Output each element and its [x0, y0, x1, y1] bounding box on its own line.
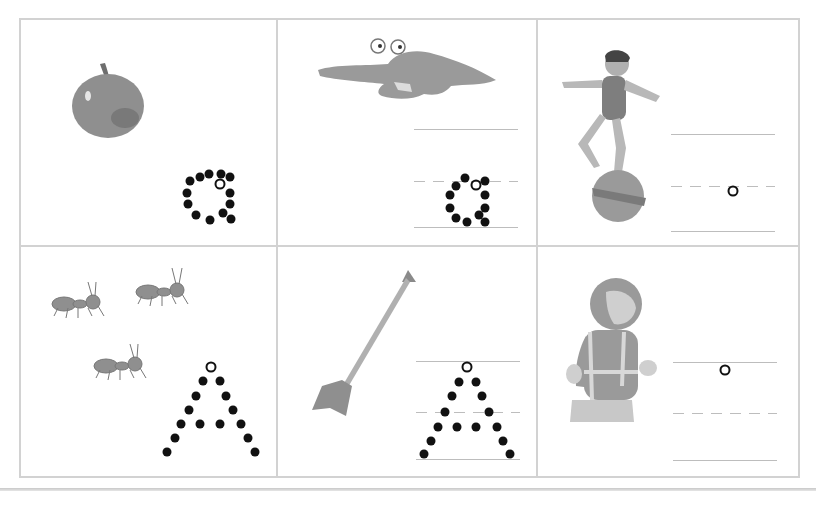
grid-border-top	[19, 18, 800, 20]
trace-dot	[226, 173, 235, 182]
guide-line-dashed	[673, 413, 777, 414]
trace-dot	[448, 392, 457, 401]
guide-line-solid	[671, 231, 775, 232]
trace-dot	[420, 450, 429, 459]
guide-line-solid	[673, 460, 777, 461]
grid-divider-horizontal	[19, 245, 800, 247]
trace-dot	[183, 189, 192, 198]
trace-dot	[196, 173, 205, 182]
trace-dot	[446, 191, 455, 200]
guide-line-solid	[414, 129, 518, 130]
trace-start-circle	[462, 362, 473, 373]
trace-dot	[216, 420, 225, 429]
trace-dot	[506, 450, 515, 459]
guide-line-solid	[673, 362, 777, 363]
trace-dot	[452, 182, 461, 191]
trace-dot	[463, 218, 472, 227]
arrow-icon	[310, 268, 420, 422]
trace-dot	[237, 420, 246, 429]
trace-dot	[472, 378, 481, 387]
trace-dot	[485, 408, 494, 417]
apple-icon	[70, 60, 150, 140]
trace-dot	[481, 191, 490, 200]
trace-dot	[472, 423, 481, 432]
astronaut-icon	[562, 276, 658, 424]
trace-dot	[171, 434, 180, 443]
guide-line-dashed	[671, 186, 775, 187]
trace-dot	[206, 216, 215, 225]
trace-dot	[244, 434, 253, 443]
trace-start-circle	[206, 362, 217, 373]
trace-dot	[481, 177, 490, 186]
trace-dot	[455, 378, 464, 387]
alligator-icon	[316, 38, 498, 104]
trace-dot	[217, 170, 226, 179]
trace-dot	[226, 200, 235, 209]
trace-dot	[453, 423, 462, 432]
trace-dot	[229, 406, 238, 415]
guide-line-solid	[671, 134, 775, 135]
guide-line-solid	[414, 227, 518, 228]
trace-dot	[427, 437, 436, 446]
grid-divider-vertical-1	[276, 18, 278, 478]
ants-icon	[48, 272, 192, 390]
trace-dot	[177, 420, 186, 429]
grid-border-right	[798, 18, 800, 478]
trace-dot	[446, 204, 455, 213]
trace-dot	[196, 420, 205, 429]
trace-start-circle	[471, 180, 482, 191]
trace-start-circle	[215, 179, 226, 190]
trace-start-circle	[728, 186, 739, 197]
alphabet-worksheet-page	[0, 0, 816, 505]
page-bottom-edge	[0, 488, 816, 491]
trace-dot	[478, 392, 487, 401]
grid-border-bottom	[19, 476, 800, 478]
trace-dot	[499, 437, 508, 446]
trace-dot	[493, 423, 502, 432]
grid-divider-vertical-2	[536, 18, 538, 478]
trace-dot	[186, 177, 195, 186]
trace-dot	[205, 170, 214, 179]
trace-dot	[452, 214, 461, 223]
grid-border-left	[19, 18, 21, 478]
trace-dot	[163, 448, 172, 457]
trace-dot	[481, 218, 490, 227]
trace-dot	[441, 408, 450, 417]
trace-dot	[227, 215, 236, 224]
trace-dot	[216, 377, 225, 386]
trace-dot	[184, 200, 193, 209]
trace-dot	[199, 377, 208, 386]
trace-dot	[192, 211, 201, 220]
trace-dot	[222, 392, 231, 401]
trace-dot	[226, 189, 235, 198]
trace-dot	[461, 174, 470, 183]
trace-dot	[434, 423, 443, 432]
trace-start-circle	[720, 365, 731, 376]
guide-line-dashed	[416, 412, 520, 413]
trace-dot	[185, 406, 194, 415]
trace-dot	[192, 392, 201, 401]
guide-line-solid	[416, 459, 520, 460]
trace-dot	[251, 448, 260, 457]
acrobat-icon	[560, 48, 664, 222]
